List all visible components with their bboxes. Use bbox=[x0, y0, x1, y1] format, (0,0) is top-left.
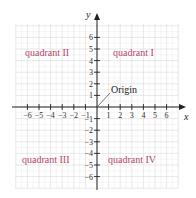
x-tick-label: −6 bbox=[23, 111, 32, 120]
coordinate-plane: x y −6−5−4−3−2−1123456654321−1−2−3−4−5−6… bbox=[0, 0, 196, 198]
origin-annotation: Origin bbox=[98, 84, 137, 106]
y-tick-label: −4 bbox=[84, 149, 93, 158]
y-axis-arrow-icon bbox=[94, 13, 100, 20]
x-axis-label: x bbox=[183, 111, 189, 122]
x-tick-label: −4 bbox=[46, 111, 55, 120]
quadrant-IV-label: quadrant IV bbox=[108, 154, 157, 165]
y-tick-label: 3 bbox=[89, 68, 93, 77]
quadrant-II-label: quadrant II bbox=[25, 47, 69, 58]
quadrant-III-label: quadrant III bbox=[22, 154, 69, 165]
x-tick-label: −2 bbox=[70, 111, 79, 120]
x-tick-label: −5 bbox=[35, 111, 44, 120]
y-tick-label: 6 bbox=[89, 33, 93, 42]
y-axis-label: y bbox=[85, 9, 91, 20]
x-tick-label: 4 bbox=[141, 111, 145, 120]
x-tick-label: 1 bbox=[107, 111, 111, 120]
x-tick-label: 3 bbox=[130, 111, 134, 120]
y-tick-label: −3 bbox=[84, 138, 93, 147]
y-tick-label: 4 bbox=[89, 57, 93, 66]
x-tick-label: 6 bbox=[165, 111, 169, 120]
quadrant-I-label: quadrant I bbox=[113, 47, 154, 58]
y-tick-label: −5 bbox=[84, 161, 93, 170]
y-tick-label: 5 bbox=[89, 45, 93, 54]
y-tick-label: 2 bbox=[89, 80, 93, 89]
x-tick-label: −3 bbox=[58, 111, 67, 120]
y-tick-label: −2 bbox=[84, 126, 93, 135]
x-tick-label: 2 bbox=[118, 111, 122, 120]
x-tick-label: 5 bbox=[153, 111, 157, 120]
y-tick-label: −1 bbox=[84, 115, 93, 124]
y-tick-label: 1 bbox=[89, 91, 93, 100]
origin-label: Origin bbox=[111, 84, 137, 95]
y-tick-label: −6 bbox=[84, 173, 93, 182]
x-axis-arrow-icon bbox=[179, 104, 186, 110]
